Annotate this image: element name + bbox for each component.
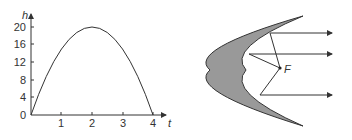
focus-ray-3: [260, 68, 280, 95]
svg-text:8: 8: [20, 74, 26, 86]
svg-text:16: 16: [14, 38, 26, 50]
svg-text:3: 3: [120, 117, 126, 129]
projectile-chart: h t 0 4 8 12 16 20 1 2 3 4: [14, 9, 172, 129]
parabola-curve: [31, 27, 153, 115]
svg-text:4: 4: [150, 117, 156, 129]
focus-ray-2: [249, 54, 280, 68]
svg-text:12: 12: [14, 56, 26, 68]
figure: h t 0 4 8 12 16 20 1 2 3 4: [0, 0, 352, 140]
svg-text:2: 2: [89, 117, 95, 129]
focus-ray-1: [270, 33, 280, 68]
svg-text:0: 0: [20, 109, 26, 121]
y-axis-label: h: [22, 9, 28, 21]
focus-label: F: [284, 63, 292, 75]
x-axis-label: t: [168, 117, 172, 129]
focus-point: [278, 66, 281, 69]
parabolic-reflector-diagram: F: [206, 16, 332, 126]
svg-text:4: 4: [20, 91, 26, 103]
svg-text:20: 20: [14, 21, 26, 33]
svg-text:1: 1: [58, 117, 64, 129]
